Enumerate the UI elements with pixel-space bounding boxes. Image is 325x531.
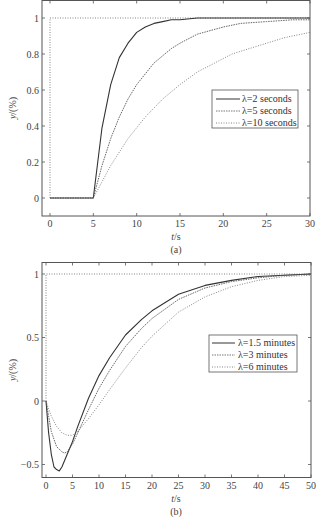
- x-tick-label: 45: [280, 480, 290, 491]
- x-tick-label: 30: [200, 480, 210, 491]
- y-tick-label: 0: [34, 396, 39, 407]
- y-tick-label: 0.4: [27, 121, 40, 132]
- x-tick-label: 30: [305, 218, 315, 229]
- x-tick-label: 35: [227, 480, 237, 491]
- chart-panel-b: 05101520253035404550 −0.500.51 t/s y/(%)…: [0, 262, 325, 531]
- y-tick-label: 0.8: [27, 49, 40, 60]
- x-tick-label: 40: [253, 480, 263, 491]
- x-tick-label: 25: [262, 218, 272, 229]
- series-line-1: [46, 274, 311, 471]
- plot-area-b: [46, 274, 311, 471]
- legend-b: λ=1.5 minutes λ=3 minutes λ=6 minutes: [209, 335, 297, 372]
- legend-label-lambda-3: λ=3 minutes: [238, 349, 288, 360]
- x-tick-label: 25: [174, 480, 184, 491]
- x-tick-label: 50: [306, 480, 316, 491]
- chart-panel-a: 051015202530 00.20.40.60.81 t/s y/(%) (a…: [0, 0, 325, 262]
- y-tick-label: −0.5: [21, 459, 39, 470]
- y-tick-label: 1: [34, 269, 39, 280]
- caption-a: (a): [170, 244, 181, 256]
- legend-label-lambda-10: λ=10 seconds: [242, 117, 297, 128]
- legend-a: λ=2 seconds λ=5 seconds λ=10 seconds: [212, 90, 298, 128]
- x-tick-label: 20: [147, 480, 157, 491]
- x-tick-label: 10: [94, 480, 104, 491]
- x-tick-label: 5: [91, 218, 96, 229]
- x-tick-label: 5: [70, 480, 75, 491]
- x-ticks-b: 05101520253035404550: [44, 263, 317, 491]
- y-axis-label-b: y/(%): [7, 359, 19, 382]
- legend-label-lambda-1-5: λ=1.5 minutes: [238, 337, 295, 348]
- x-tick-label: 0: [48, 218, 53, 229]
- y-tick-label: 0: [34, 193, 39, 204]
- x-axis-label-a: t/s: [171, 231, 181, 242]
- legend-label-lambda-5: λ=5 seconds: [242, 105, 292, 116]
- x-tick-label: 20: [218, 218, 228, 229]
- x-tick-label: 15: [121, 480, 131, 491]
- x-axis-label-b: t/s: [171, 493, 181, 504]
- caption-b: (b): [170, 506, 182, 518]
- legend-label-lambda-6: λ=6 minutes: [238, 361, 288, 372]
- x-tick-label: 15: [175, 218, 185, 229]
- y-tick-label: 0.6: [27, 85, 40, 96]
- legend-label-lambda-2: λ=2 seconds: [242, 93, 292, 104]
- x-tick-label: 10: [132, 218, 142, 229]
- x-tick-label: 0: [44, 480, 49, 491]
- y-tick-label: 0.5: [27, 332, 40, 343]
- y-axis-label-a: y/(%): [7, 97, 19, 120]
- y-tick-label: 0.2: [27, 157, 40, 168]
- y-tick-label: 1: [34, 13, 39, 24]
